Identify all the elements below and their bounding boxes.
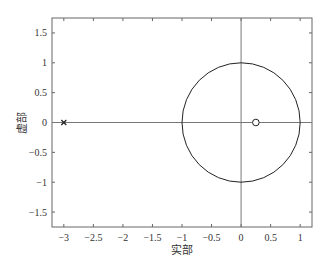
y-tick-label: −1: [36, 177, 47, 188]
x-tick-label: −2.5: [84, 232, 102, 243]
x-tick-label: −2: [118, 232, 129, 243]
x-tick-label: 0: [239, 232, 244, 243]
y-tick-label: 0: [42, 117, 47, 128]
zero-marker: [253, 119, 260, 126]
x-tick-label: −3: [58, 232, 69, 243]
y-tick-label: 1.5: [35, 27, 48, 38]
y-tick-label: −0.5: [29, 147, 47, 158]
y-tick-label: 1: [42, 57, 47, 68]
x-tick-label: −1.5: [143, 232, 161, 243]
y-tick-label: 0.5: [35, 87, 48, 98]
x-tick-label: 1: [298, 232, 303, 243]
y-tick-label: −1.5: [29, 207, 47, 218]
x-tick-label: 0.5: [264, 232, 277, 243]
x-axis-label: 实部: [171, 243, 193, 257]
x-tick-label: −1: [177, 232, 188, 243]
pole-zero-plot: −3−2.5−2−1.5−1−0.500.511.510.50−0.5−1−1.…: [0, 0, 329, 266]
x-tick-label: −0.5: [202, 232, 220, 243]
y-axis-label: 虚部: [15, 112, 29, 134]
